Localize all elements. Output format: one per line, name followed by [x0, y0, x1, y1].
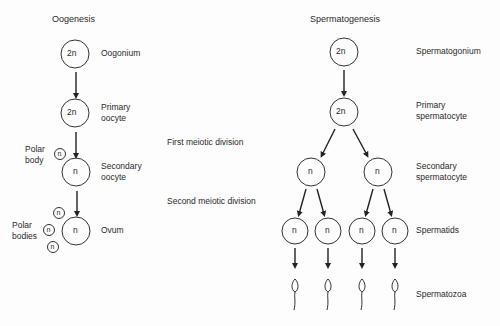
- stage-label-secondary-spermatocyte: Secondary spermatocyte: [416, 161, 467, 183]
- label-line: Primary: [416, 100, 467, 111]
- ploidy-label: n: [58, 148, 62, 159]
- stage-label-primary-spermatocyte: Primary spermatocyte: [416, 100, 467, 122]
- ploidy-label: n: [308, 166, 313, 177]
- label-line: body: [25, 155, 45, 166]
- spermatozoon-icon: [325, 279, 331, 310]
- ploidy-label: n: [47, 224, 51, 235]
- ploidy-label: n: [73, 225, 78, 236]
- polar-bodies-label: Polar bodies: [12, 220, 37, 242]
- label-line: Secondary: [101, 161, 142, 172]
- spermatozoon-icon: [392, 279, 398, 310]
- stage-label-spermatids: Spermatids: [416, 225, 459, 236]
- spermatogenesis-title: Spermatogenesis: [310, 14, 380, 25]
- stage-label-ovum: Ovum: [101, 225, 124, 236]
- ploidy-label: n: [325, 225, 330, 236]
- ploidy-label: n: [375, 166, 380, 177]
- ploidy-label: n: [292, 225, 297, 236]
- spermatozoon-icon: [359, 279, 365, 310]
- label-line: Polar: [25, 144, 45, 155]
- ploidy-label: 2n: [67, 107, 76, 118]
- ploidy-label: 2n: [336, 46, 345, 57]
- label-line: Primary: [101, 102, 130, 113]
- meiosis-diagram: 2n 2n n n n n n n 2n 2n n n n n n n Ooge…: [0, 0, 500, 326]
- stage-label-spermatozoa: Spermatozoa: [416, 289, 467, 300]
- ploidy-label: 2n: [67, 48, 76, 59]
- oogenesis-title: Oogenesis: [52, 14, 95, 25]
- ploidy-label: n: [359, 225, 364, 236]
- label-line: spermatocyte: [416, 172, 467, 183]
- stage-label-spermatogonium: Spermatogonium: [416, 46, 481, 57]
- stage-label-oogonium: Oogonium: [101, 48, 140, 59]
- label-line: bodies: [12, 231, 37, 242]
- label-line: oocyte: [101, 113, 130, 124]
- spermatozoa: [292, 279, 398, 310]
- ploidy-label: 2n: [336, 106, 345, 117]
- stage-label-secondary-oocyte: Secondary oocyte: [101, 161, 142, 183]
- spermatozoon-icon: [292, 279, 298, 310]
- ploidy-label: n: [392, 225, 397, 236]
- stage-label-primary-oocyte: Primary oocyte: [101, 102, 130, 124]
- ploidy-label: n: [73, 166, 78, 177]
- label-line: Secondary: [416, 161, 467, 172]
- ploidy-label: n: [51, 241, 55, 252]
- ploidy-label: n: [57, 207, 61, 218]
- label-line: oocyte: [101, 172, 142, 183]
- second-meiotic-division-label: Second meiotic division: [167, 196, 256, 207]
- first-meiotic-division-label: First meiotic division: [167, 137, 244, 148]
- polar-body-label: Polar body: [25, 144, 45, 166]
- label-line: spermatocyte: [416, 111, 467, 122]
- label-line: Polar: [12, 220, 37, 231]
